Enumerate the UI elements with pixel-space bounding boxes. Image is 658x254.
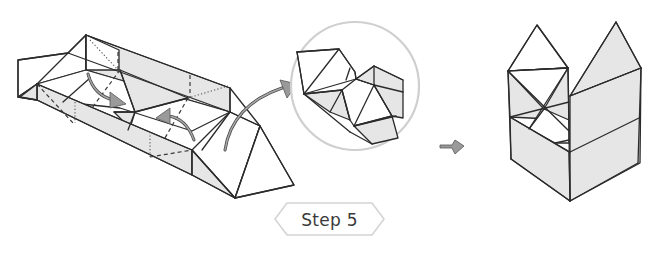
result-arrow-icon — [440, 140, 464, 154]
left-tower-peak — [508, 25, 568, 71]
detail-inset — [291, 22, 419, 150]
folding-model — [18, 35, 297, 198]
step-label: Step 5 — [301, 210, 358, 230]
step-badge: Step 5 — [275, 203, 384, 235]
origami-step-diagram: Step 5 — [0, 0, 658, 254]
result-model — [508, 22, 641, 201]
